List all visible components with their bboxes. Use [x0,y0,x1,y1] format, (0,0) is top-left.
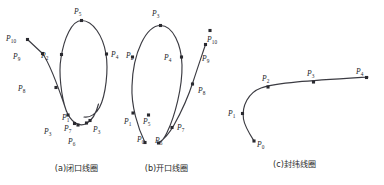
point-label: P7 [64,125,71,133]
point-label-base: P [137,135,142,144]
point-label: P9 [13,53,20,61]
point-label: P2 [262,75,269,83]
point-label: P4 [356,68,363,76]
point-label: P4 [164,54,171,62]
coil-diagram-figure: P5P10P9P2P4P8P1P7P3P6P3P3P2P4P10P9P8P1P5… [0,0,384,185]
point-label: P0 [137,136,144,144]
point-label-base: P [44,127,49,136]
point-label-base: P [74,7,79,16]
point-label-base: P [41,51,46,60]
point-label-base: P [207,35,212,44]
point-label-base: P [126,51,131,60]
point-label-base: P [6,34,11,43]
point-label: P10 [207,36,217,44]
panel-caption: (a)闭口线圈 [34,164,119,172]
point-label: P10 [6,35,16,43]
point-label: P6 [155,137,162,145]
control-point-marker [266,85,269,88]
point-label-base: P [13,52,18,61]
control-point-marker [241,112,244,115]
point-label: P2 [126,52,133,60]
point-label: P1 [228,110,235,118]
point-label-subscript: 10 [212,39,217,45]
point-label: P3 [44,128,51,136]
control-point-marker [365,76,368,79]
panel-caption: (b)开口线圈 [124,164,209,172]
point-label: P5 [74,8,81,16]
point-label: P7 [177,124,184,132]
point-label-base: P [356,67,361,76]
point-label-base: P [164,53,169,62]
point-label-base: P [257,140,262,149]
point-label-base: P [307,69,312,78]
point-label: P1 [124,118,131,126]
panel-caption: (c)封纬线圈 [252,160,337,168]
control-point-marker [252,139,255,142]
control-point-marker [312,80,315,83]
point-label-base: P [228,109,233,118]
point-label-base: P [198,86,203,95]
point-label-base: P [111,50,116,59]
point-label-base: P [64,124,69,133]
point-label: P2 [41,52,48,60]
point-label-base: P [155,136,160,145]
point-label: P8 [198,87,205,95]
point-label-base: P [124,117,129,126]
point-label-base: P [202,54,207,63]
point-label-base: P [62,113,67,122]
point-label-base: P [152,9,157,18]
point-label-subscript: 10 [11,38,16,44]
point-label: P5 [143,118,150,126]
point-label: P3 [307,70,314,78]
point-label: P4 [111,51,118,59]
point-label: P8 [18,85,25,93]
point-label-base: P [177,123,182,132]
point-label: P0 [257,141,264,149]
panel-c-weft-coil [0,0,384,185]
point-label-base: P [143,117,148,126]
point-label-base: P [93,125,98,134]
coil-curve-c [243,77,368,141]
point-label-base: P [262,74,267,83]
point-label: P3 [93,126,100,134]
point-label: P1 [62,114,69,122]
point-label-base: P [68,137,73,146]
point-label: P9 [202,55,209,63]
point-label: P6 [68,138,75,146]
point-label-base: P [18,84,23,93]
point-label: P3 [152,10,159,18]
